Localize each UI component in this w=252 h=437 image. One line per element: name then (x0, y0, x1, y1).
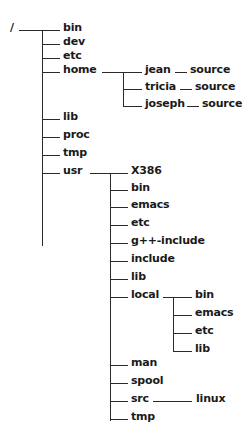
tree-connector-horizontal (110, 243, 128, 244)
dir-node-usr-src: src (131, 392, 149, 405)
tree-connector-horizontal (110, 383, 128, 384)
tree-connector-horizontal (175, 72, 187, 73)
tree-connector-horizontal (110, 207, 128, 208)
tree-connector-horizontal (102, 72, 142, 73)
tree-connector-horizontal (42, 119, 60, 120)
dir-node-usr-gpp-include: g++-include (131, 234, 205, 247)
tree-connector-horizontal (42, 72, 60, 73)
dir-node-usr-tmp: tmp (131, 410, 155, 423)
root-directory-label: / (10, 21, 14, 34)
tree-connector-horizontal (110, 401, 128, 402)
dir-node-usr-etc: etc (131, 216, 150, 229)
dir-node-usr-lib: lib (131, 270, 146, 283)
dir-node-dev: dev (63, 35, 85, 48)
dir-node-usr-man: man (131, 356, 157, 369)
directory-tree-diagram: / bindevetchomelibproctmpusrjeantriciajo… (0, 0, 252, 437)
tree-connector-horizontal (173, 351, 192, 352)
dir-node-local-etc: etc (195, 324, 214, 337)
tree-connector-horizontal (90, 173, 128, 174)
dir-node-local-emacs: emacs (195, 306, 233, 319)
dir-node-tmp: tmp (63, 146, 87, 159)
dir-node-usr-include: include (131, 252, 175, 265)
dir-node-home: home (63, 63, 97, 76)
tree-connector-horizontal (19, 30, 42, 31)
tree-connector-horizontal (42, 173, 60, 174)
tree-connector-horizontal (180, 89, 192, 90)
tree-connector-horizontal (187, 106, 199, 107)
dir-node-usr-local: local (131, 288, 159, 301)
tree-connector-horizontal (110, 190, 128, 191)
tree-connector-horizontal (110, 365, 128, 366)
tree-connector-horizontal (110, 279, 128, 280)
tree-connector-horizontal (110, 225, 128, 226)
tree-connector-vertical (173, 297, 174, 351)
dir-node-lib: lib (63, 110, 78, 123)
dir-node-home-jean: jean (145, 63, 171, 76)
tree-connector-horizontal (163, 297, 192, 298)
tree-connector-horizontal (110, 261, 128, 262)
dir-node-usr-x386: X386 (131, 164, 162, 177)
tree-connector-horizontal (42, 30, 60, 31)
tree-connector-horizontal (42, 155, 60, 156)
dir-node-home-joseph: joseph (145, 97, 185, 110)
dir-node-src-linux: linux (196, 392, 225, 405)
dir-node-jean-source: source (190, 63, 230, 76)
dir-node-joseph-source: source (202, 97, 242, 110)
tree-connector-horizontal (110, 419, 128, 420)
dir-node-etc: etc (63, 49, 82, 62)
dir-node-local-lib: lib (195, 342, 210, 355)
dir-node-usr-bin: bin (131, 181, 150, 194)
tree-connector-horizontal (123, 106, 142, 107)
dir-node-tricia-source: source (195, 80, 235, 93)
tree-connector-horizontal (173, 315, 192, 316)
tree-connector-horizontal (42, 137, 60, 138)
tree-connector-horizontal (173, 333, 192, 334)
dir-node-usr-spool: spool (131, 374, 163, 387)
tree-connector-horizontal (42, 44, 60, 45)
tree-connector-horizontal (153, 401, 192, 402)
tree-connector-vertical (42, 30, 43, 246)
tree-connector-horizontal (42, 58, 60, 59)
dir-node-home-tricia: tricia (145, 80, 176, 93)
tree-connector-horizontal (110, 297, 128, 298)
dir-node-local-bin: bin (195, 288, 214, 301)
dir-node-usr: usr (63, 164, 82, 177)
dir-node-usr-emacs: emacs (131, 198, 169, 211)
tree-connector-horizontal (123, 89, 142, 90)
dir-node-proc: proc (63, 128, 90, 141)
dir-node-bin: bin (63, 21, 82, 34)
